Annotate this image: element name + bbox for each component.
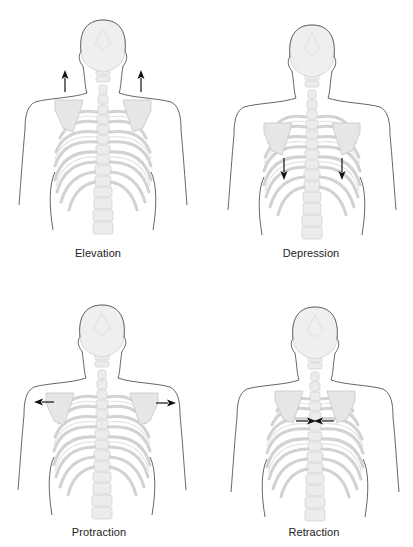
elevation-figure <box>0 0 206 250</box>
panel-elevation: Elevation <box>0 0 206 270</box>
retraction-label: Retraction <box>254 526 374 538</box>
depression-label: Depression <box>251 247 371 259</box>
panel-protraction: Protraction <box>0 275 206 547</box>
arrow-right-icon <box>156 400 176 407</box>
protraction-figure <box>0 275 206 525</box>
elevation-label: Elevation <box>38 247 158 259</box>
panel-depression: Depression <box>206 0 413 270</box>
protraction-label: Protraction <box>39 526 159 538</box>
retraction-figure <box>206 275 413 525</box>
arrow-up-icon <box>138 70 145 92</box>
arrow-up-icon <box>62 70 69 92</box>
depression-figure <box>206 0 413 250</box>
panel-retraction: Retraction <box>206 275 413 547</box>
